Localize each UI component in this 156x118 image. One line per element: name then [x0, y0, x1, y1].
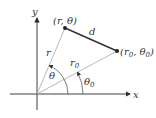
- radius-r-line: [37, 28, 65, 94]
- theta0-arc: [78, 72, 84, 94]
- distance-label: d: [89, 26, 95, 37]
- r-label: r: [46, 47, 52, 58]
- r0-label: r0: [70, 57, 80, 70]
- point-r-theta: [63, 26, 67, 30]
- point-r0-theta0-label: (r0, θ0): [120, 46, 154, 59]
- point-r0-theta0: [115, 49, 119, 53]
- point-r-theta-label: (r, θ): [53, 15, 77, 26]
- polar-distance-diagram: x y (r, θ) (r0, θ0) d r r0 θ θ0: [0, 0, 156, 118]
- y-axis-label: y: [31, 6, 38, 17]
- theta-label: θ: [49, 70, 55, 81]
- theta0-label: θ0: [84, 76, 95, 89]
- x-axis-label: x: [133, 89, 139, 100]
